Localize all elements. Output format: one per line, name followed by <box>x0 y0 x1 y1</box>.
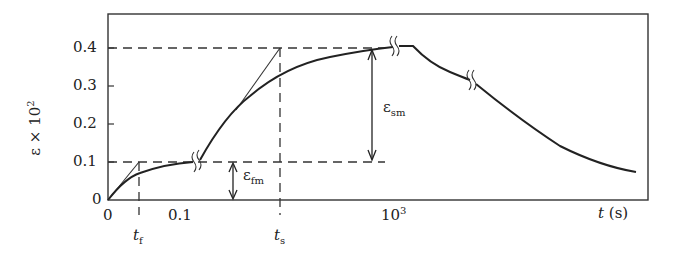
y-ticks <box>108 48 114 162</box>
x-tick-label: 103 <box>381 206 406 223</box>
y-tick-label: 0.3 <box>73 78 97 93</box>
y-tick-label: 0.2 <box>73 116 97 131</box>
ts-marker-label: ts <box>274 228 285 246</box>
x-tick-label: 0 <box>103 208 113 223</box>
y-axis-title: ε × 102 <box>25 100 44 155</box>
esm-annotation: εsm <box>383 100 405 118</box>
x-tick-label: 0.1 <box>168 208 192 223</box>
tf-marker-label: tf <box>133 228 143 246</box>
x-axis-title: t (s) <box>598 206 628 221</box>
plot-frame <box>108 14 648 200</box>
y-tick-label: 0.4 <box>73 40 97 55</box>
dashed-guides <box>108 48 385 215</box>
efm-annotation: εfm <box>243 168 264 186</box>
y-tick-label: 0 <box>92 192 102 207</box>
y-tick-label: 0.1 <box>73 154 97 169</box>
chart-canvas <box>0 0 679 255</box>
